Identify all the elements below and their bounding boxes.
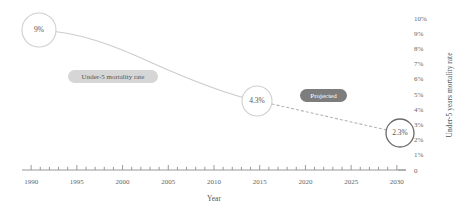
- y-axis-tick-label: 2%: [414, 136, 424, 144]
- x-axis-tick-label: 2020: [298, 178, 313, 186]
- y-axis-tick-label: 9%: [414, 30, 424, 38]
- y-axis-tick-label: 1%: [414, 151, 424, 159]
- marker-2015-label: 4.3%: [249, 96, 265, 105]
- chart-container: 9% 4.3% 2.3% Under-5 mortality rate Proj…: [0, 0, 470, 219]
- x-axis-tick-label: 1995: [70, 178, 85, 186]
- series-line-actual: [39, 30, 257, 101]
- x-axis-tick-label: 2015: [253, 178, 268, 186]
- x-axis-tick-label: 1990: [24, 178, 39, 186]
- marker-2015[interactable]: 4.3%: [242, 86, 272, 116]
- y-axis-tick-label: 5%: [414, 91, 424, 99]
- y-axis-title: Under-5 years mortality rate: [445, 52, 454, 138]
- y-axis-tick-label: 8%: [414, 45, 424, 53]
- series-line-projected: [272, 104, 400, 133]
- x-axis-title: Year: [207, 194, 221, 203]
- y-axis-tick-labels: 10%9%8%7%6%5%4%3%2%1%0: [414, 15, 427, 175]
- x-axis-ticks: [31, 165, 397, 170]
- marker-1990[interactable]: 9%: [22, 13, 56, 47]
- marker-2030-label: 2.3%: [392, 128, 408, 137]
- y-axis-tick-label: 10%: [414, 15, 427, 23]
- series-badge-actual[interactable]: Under-5 mortality rate: [68, 70, 158, 83]
- series-badge-projected-label: Projected: [310, 92, 337, 100]
- series-badge-actual-label: Under-5 mortality rate: [82, 73, 145, 81]
- x-axis-tick-label: 2010: [207, 178, 222, 186]
- x-axis-tick-labels: 199019952000200520102015202020252030: [24, 178, 404, 186]
- x-axis-tick-label: 2030: [390, 178, 405, 186]
- y-axis-tick-label: 7%: [414, 60, 424, 68]
- y-axis-tick-label: 0: [414, 167, 418, 175]
- chart-plot-area: 9% 4.3% 2.3% Under-5 mortality rate Proj…: [0, 0, 470, 219]
- y-axis-tick-label: 4%: [414, 106, 424, 114]
- x-axis-tick-label: 2005: [161, 178, 176, 186]
- marker-2030[interactable]: 2.3%: [386, 119, 414, 147]
- x-axis-tick-label: 2025: [344, 178, 359, 186]
- y-axis-tick-label: 3%: [414, 121, 424, 129]
- x-axis-tick-label: 2000: [116, 178, 131, 186]
- y-axis-tick-label: 6%: [414, 75, 424, 83]
- marker-1990-label: 9%: [34, 25, 44, 34]
- series-badge-projected[interactable]: Projected: [300, 89, 347, 102]
